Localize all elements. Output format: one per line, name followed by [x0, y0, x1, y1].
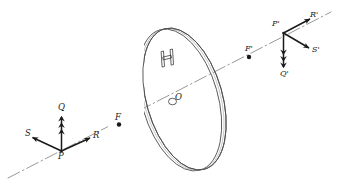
label-q-prime: Q' — [280, 70, 289, 78]
vector-q-prime — [280, 33, 287, 68]
optics-diagram-svg — [0, 0, 339, 195]
vector-r — [62, 138, 91, 151]
label-r-prime: R' — [310, 11, 318, 19]
label-f-prime: F' — [245, 45, 253, 53]
label-p-prime: P' — [272, 20, 280, 28]
vector-triad-p-prime — [280, 19, 310, 68]
vector-s-prime — [284, 33, 310, 48]
focal-point-f — [117, 122, 121, 126]
label-o: O — [175, 93, 182, 102]
figure-canvas: P Q R S F O F' P' Q' R' S' — [0, 0, 339, 195]
label-s-prime: S' — [312, 46, 320, 54]
vector-r-prime — [284, 19, 311, 33]
vector-q — [58, 116, 65, 151]
optical-axis — [8, 12, 331, 178]
label-p: P — [58, 152, 64, 161]
label-r: R — [93, 131, 99, 140]
vector-s — [33, 138, 62, 152]
label-s: S — [25, 129, 31, 138]
lens-mark-h — [162, 49, 174, 67]
focal-point-f-prime — [247, 55, 251, 59]
label-f: F — [115, 113, 121, 122]
vector-triad-p — [33, 116, 91, 153]
label-q: Q — [58, 103, 65, 112]
